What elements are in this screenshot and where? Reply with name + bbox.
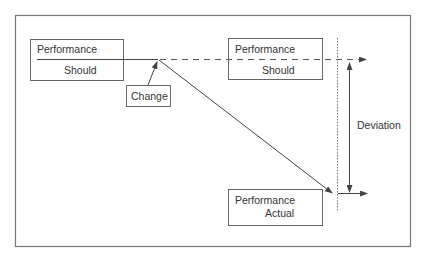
box-should-right-line2: Should bbox=[262, 64, 295, 76]
box-actual-line2: Actual bbox=[265, 207, 294, 219]
change-label: Change bbox=[131, 90, 168, 102]
change-arrow bbox=[148, 62, 157, 85]
box-actual-line1: Performance bbox=[235, 194, 295, 206]
diagram-canvas: Performance Should Performance Should Ch… bbox=[0, 0, 426, 260]
box-should-left-line2: Should bbox=[64, 64, 97, 76]
box-should-right-line1: Performance bbox=[235, 43, 295, 55]
box-should-left-line1: Performance bbox=[37, 43, 97, 55]
deviation-label: Deviation bbox=[357, 119, 401, 131]
